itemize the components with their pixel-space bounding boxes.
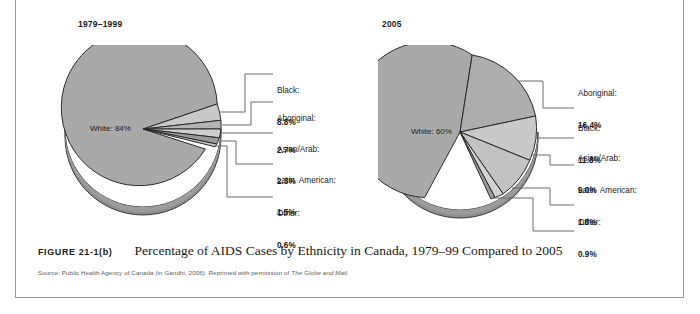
callout-other-2005: Other: 0.9%	[578, 197, 601, 281]
source-suffix: .	[347, 269, 349, 276]
callout-category: Aboriginal:	[578, 89, 617, 100]
leader-lines-1979	[216, 74, 273, 197]
figure-number: FIGURE 21-1(b)	[38, 247, 112, 257]
callout-category: Asian/Arab:	[578, 154, 620, 165]
source-publication: The Globe and Mail	[291, 269, 347, 276]
source-note: Source: Public Health Agency of Canada (…	[38, 269, 349, 276]
inside-label-white-1979: White: 84%	[90, 124, 131, 133]
source-prefix: Source: Public Health Agency of Canada (…	[38, 269, 291, 276]
charts-area: 1979–1999 White: 84% Black: 8.8% Ab	[0, 0, 700, 240]
callout-category: Latin American:	[578, 186, 637, 197]
chart-title-1979-1999: 1979–1999	[78, 19, 122, 29]
figure-title: Percentage of AIDS Cases by Ethnicity in…	[134, 243, 562, 259]
slice-white-2005	[378, 45, 472, 198]
chart-title-2005: 2005	[382, 19, 402, 29]
inside-label-white-2005: White: 60%	[411, 127, 452, 136]
callout-other-1979: Other: 0.6%	[277, 188, 300, 272]
callout-category: Asian/Arab:	[277, 145, 319, 156]
callout-category: Other:	[578, 218, 601, 229]
callout-category: Latin American:	[277, 176, 336, 187]
callout-category: Aboriginal:	[277, 114, 316, 125]
pie-chart-1979-1999	[55, 45, 300, 230]
callout-category: Other:	[277, 209, 300, 220]
figure-caption: FIGURE 21-1(b) Percentage of AIDS Cases …	[38, 243, 668, 259]
